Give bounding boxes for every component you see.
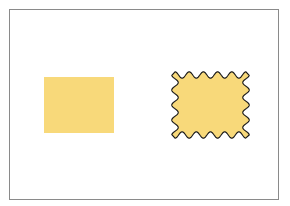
wavy-rectangle (0, 0, 290, 206)
